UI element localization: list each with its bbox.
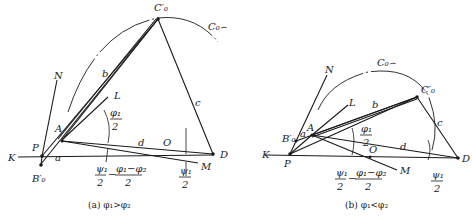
angle-psi1-right-den: 2 (181, 179, 188, 190)
label-link-d: d (138, 137, 144, 148)
label-link-b: b (372, 99, 378, 110)
angle-psi1-num: ψ₁ (96, 163, 108, 174)
label-l: L (348, 97, 356, 108)
point-d (456, 156, 460, 160)
label-p: P (283, 158, 291, 169)
point-a (310, 133, 313, 136)
figure-a: C′₀ C₀⌢ N L A P B′₀ K D O M b c d a φ₁ 2… (7, 2, 228, 210)
label-b0p: B′₀ (281, 133, 296, 144)
angle-psi1-right-num: ψ₁ (180, 165, 192, 176)
label-c0-arc: C₀⌢ (208, 21, 227, 32)
point-p (40, 154, 44, 158)
angle-diff-num: φ₁−φ₂ (356, 167, 386, 178)
figure-b: C′₀ C₀⌢ N L A P B′₀ K D O M b c d a φ₁ 2… (261, 57, 470, 210)
arc-c0 (318, 71, 435, 150)
line-a-m (312, 135, 397, 170)
angle-psi1-right-den: 2 (433, 183, 440, 194)
label-link-c: c (195, 97, 201, 108)
label-link-a: a (55, 152, 61, 163)
label-n: N (53, 70, 64, 81)
caption-a: (a) φ₁>φ₂ (88, 200, 131, 210)
label-link-a: a (300, 128, 306, 139)
label-o: O (163, 137, 171, 148)
angle-diff-den: 2 (124, 177, 131, 188)
label-o: O (369, 144, 377, 155)
angle-phi1-den: 2 (362, 137, 369, 148)
label-p: P (31, 142, 39, 153)
diagram-canvas: C′₀ C₀⌢ N L A P B′₀ K D O M b c d a φ₁ 2… (0, 0, 472, 218)
label-k: K (261, 149, 270, 160)
label-c0-arc: C₀⌢ (377, 57, 396, 68)
angle-phi1-num: φ₁ (361, 123, 372, 134)
label-d: D (461, 153, 470, 164)
angle-psi1-den: 2 (96, 177, 103, 188)
label-m: M (200, 161, 212, 172)
label-c0p: C′₀ (154, 2, 168, 13)
label-link-c: c (437, 117, 443, 128)
line-l (62, 97, 108, 140)
angle-psi1-den: 2 (336, 181, 343, 192)
point-c0p (156, 17, 160, 21)
angle-diff-num: φ₁−φ₂ (116, 163, 146, 174)
label-l: L (113, 90, 121, 101)
caption-b: (b) φ₁<φ₂ (345, 200, 388, 210)
point-c0p (415, 95, 419, 99)
label-b0p: B′₀ (31, 173, 46, 184)
label-d: D (219, 149, 228, 160)
line-p-n (42, 80, 57, 156)
label-n: N (324, 64, 335, 75)
line-a-m (62, 141, 198, 163)
point-p (288, 152, 292, 156)
label-a-point: A (54, 123, 62, 134)
point-d (211, 152, 215, 156)
point-o (369, 156, 372, 159)
label-link-b: b (102, 68, 108, 79)
angle-diff-den: 2 (364, 181, 371, 192)
point-a (61, 140, 64, 143)
point-b0p (39, 163, 43, 167)
link-d (312, 135, 458, 158)
label-a-point: A (306, 122, 314, 133)
label-link-d: d (400, 141, 406, 152)
label-m: M (399, 165, 411, 176)
link-c (158, 19, 213, 154)
angle-psi1-right-num: ψ₁ (432, 169, 444, 180)
angle-phi1-num: φ₁ (110, 107, 121, 118)
angle-phi1-den: 2 (111, 121, 118, 132)
label-c0p: C′₀ (421, 84, 435, 95)
angle-psi1-num: ψ₁ (336, 167, 348, 178)
label-k: K (7, 152, 16, 163)
